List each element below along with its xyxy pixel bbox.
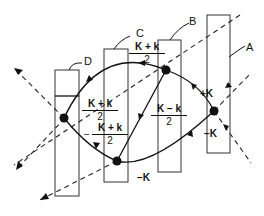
arrow-bottom-left-icon: [40, 193, 49, 200]
label-d: D: [84, 56, 92, 67]
pointer-a: [229, 46, 245, 57]
fraction-left-upper: K + k 2: [82, 99, 118, 122]
fraction-left-lower-den: 2: [92, 135, 128, 146]
edge-label-minus-k-right: −K: [204, 128, 217, 139]
pointer-d: [69, 63, 82, 70]
diagram-canvas: [0, 0, 264, 216]
fraction-middle-den: 2: [151, 116, 187, 127]
edge-label-plus-k: +K: [200, 88, 213, 99]
label-c: C: [136, 28, 144, 39]
node-top: [162, 66, 171, 75]
arrow-down-left-icon: [16, 161, 23, 170]
fraction-left-upper-den: 2: [82, 111, 118, 122]
slab-d: [55, 70, 79, 96]
fraction-top: K + k 2: [129, 42, 165, 65]
dashed-line-right-down: [214, 111, 251, 163]
node-left: [60, 114, 69, 123]
edge-label-minus-k-bottom: −K: [137, 172, 150, 183]
node-bottom: [113, 157, 122, 166]
fraction-top-den: 2: [129, 54, 165, 65]
fraction-left-lower-sign: −: [84, 129, 90, 140]
arrow-dashed-a-down-icon: [223, 124, 229, 131]
label-b: B: [189, 16, 196, 27]
arrow-middle-icon: [138, 113, 144, 120]
dashed-line-up-left: [14, 68, 64, 118]
fraction-top-num: K + k: [129, 42, 165, 54]
fraction-middle-num: K − k: [151, 104, 187, 116]
fraction-middle: K − k 2: [151, 104, 187, 127]
dashed-line-down-left: [16, 118, 65, 170]
fraction-left-upper-num: K + k: [82, 99, 118, 111]
pointer-c: [114, 36, 130, 49]
node-right: [210, 107, 219, 116]
label-a: A: [246, 42, 253, 53]
fraction-left-lower: K + k 2: [92, 123, 128, 146]
pointer-b: [170, 23, 189, 40]
arrow-up-left-icon: [14, 68, 23, 75]
fraction-left-lower-num: K + k: [92, 123, 128, 135]
